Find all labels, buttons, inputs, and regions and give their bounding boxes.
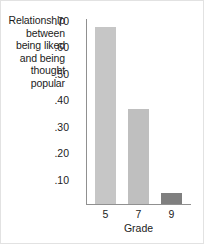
x-axis-title: Grade <box>86 223 191 234</box>
bar-grade-7 <box>128 109 149 204</box>
y-tick-label-050: .50 <box>41 69 69 80</box>
bar-grade-5 <box>95 27 116 204</box>
plot-area: .70 .60 .50 .40 .30 .20 .10 5 7 9 <box>86 19 191 204</box>
y-tick-label-030: .30 <box>41 121 69 132</box>
y-tick-label-070: .70 <box>41 16 69 27</box>
bar-chart-figure: Relationship between being liked and bei… <box>0 0 204 244</box>
y-tick-label-040: .40 <box>41 95 69 106</box>
y-tick-label-020: .20 <box>41 148 69 159</box>
bar-grade-9 <box>161 193 182 204</box>
x-axis-line <box>86 204 191 205</box>
y-tick-label-060b: .10 <box>41 174 69 185</box>
y-tick-label-060: .60 <box>41 42 69 53</box>
y-axis-line <box>86 19 87 204</box>
x-tick-label-9: 9 <box>152 209 192 220</box>
